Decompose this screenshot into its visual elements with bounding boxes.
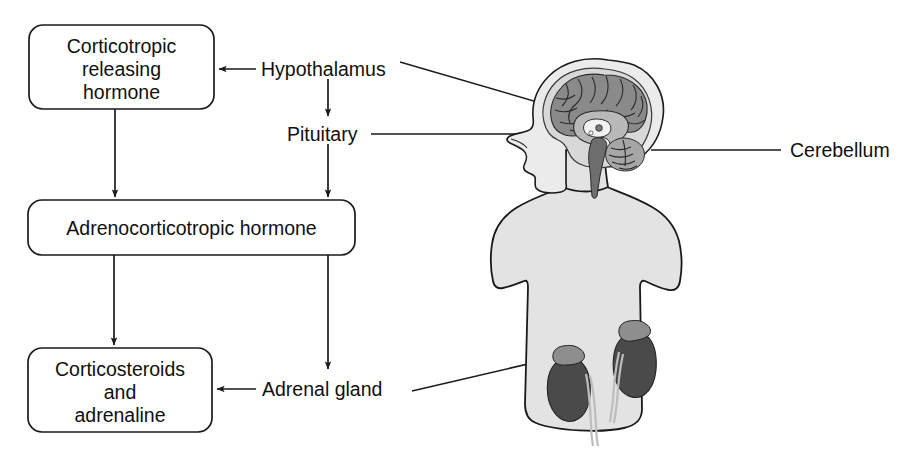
hpa-axis-diagram: Corticotropic releasing hormone Adrenoco… [0,0,919,460]
crh-label-line-3: hormone [83,81,160,103]
flow-box-crh: Corticotropic releasing hormone [29,25,214,109]
flow-box-acth: Adrenocorticotropic hormone [28,200,355,255]
flow-box-corticosteroids: Corticosteroids and adrenaline [28,348,212,432]
corticosteroids-label-line-1: Corticosteroids [55,358,185,380]
thalamus-dot [596,125,603,132]
diagram-canvas: Corticotropic releasing hormone Adrenoco… [0,0,919,460]
crh-label-line-1: Corticotropic [67,35,177,57]
label-cerebellum: Cerebellum [790,139,890,161]
left-adrenal-gland [553,345,585,365]
crh-label-line-2: releasing [82,58,161,80]
human-figure [491,59,681,446]
acth-label: Adrenocorticotropic hormone [66,217,316,239]
corticosteroids-label-line-3: adrenaline [74,404,165,426]
left-kidney [547,358,590,422]
third-ventricle-dot [589,131,593,135]
label-pituitary: Pituitary [287,123,358,145]
corticosteroids-label-line-2: and [104,381,137,403]
label-adrenal-gland: Adrenal gland [262,378,382,400]
right-kidney [613,333,656,398]
label-hypothalamus: Hypothalamus [261,58,386,80]
